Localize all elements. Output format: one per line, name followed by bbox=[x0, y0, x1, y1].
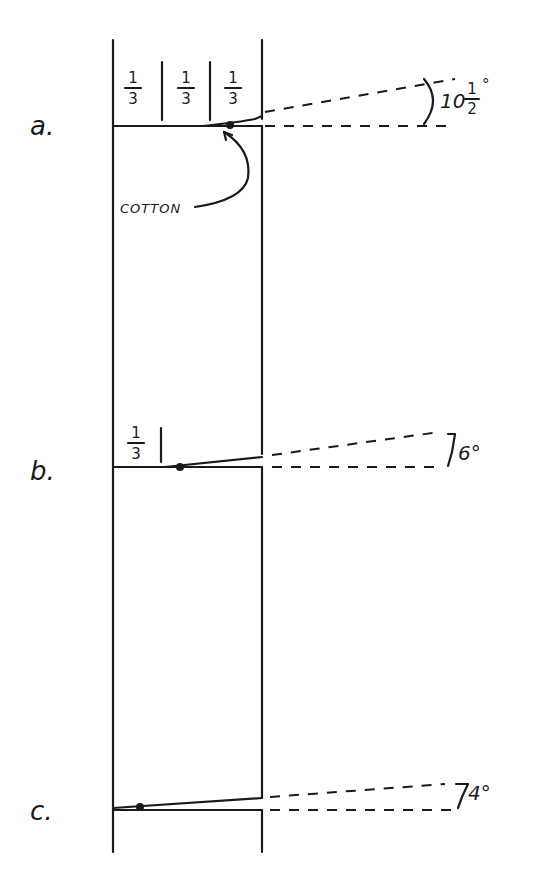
svg-text:1: 1 bbox=[131, 424, 141, 442]
cotton-knot-b bbox=[176, 463, 184, 471]
svg-text:3: 3 bbox=[131, 445, 141, 463]
fraction-b-1: 1 3 bbox=[128, 424, 144, 463]
fraction-a-2: 1 3 bbox=[178, 69, 194, 108]
cotton-knot-c bbox=[136, 803, 144, 811]
svg-text:1: 1 bbox=[181, 69, 191, 87]
panel-b bbox=[113, 428, 455, 471]
flap-c bbox=[113, 798, 262, 808]
label-b: b. bbox=[30, 456, 55, 486]
angle-line-upper-b bbox=[272, 432, 440, 455]
cotton-knot-a bbox=[226, 121, 234, 129]
cotton-arrow bbox=[195, 132, 249, 207]
angle-label-b: 6° bbox=[458, 441, 481, 465]
svg-text:2: 2 bbox=[467, 100, 477, 118]
panel-c bbox=[113, 784, 468, 811]
angle-line-upper-c bbox=[270, 784, 445, 797]
angle-bracket-a bbox=[424, 79, 433, 124]
svg-text:°: ° bbox=[482, 76, 490, 94]
svg-text:3: 3 bbox=[128, 90, 138, 108]
svg-text:3: 3 bbox=[181, 90, 191, 108]
fraction-a-3: 1 3 bbox=[225, 69, 241, 108]
panel-a bbox=[113, 62, 455, 207]
label-c: c. bbox=[30, 796, 53, 826]
svg-text:3: 3 bbox=[228, 90, 238, 108]
angle-bracket-c bbox=[456, 784, 468, 808]
label-a: a. bbox=[30, 111, 54, 141]
svg-text:1: 1 bbox=[467, 80, 477, 98]
angle-bracket-b bbox=[448, 434, 455, 466]
svg-text:1: 1 bbox=[228, 69, 238, 87]
svg-text:10: 10 bbox=[440, 89, 465, 113]
angle-label-a: 10 1 2 ° bbox=[440, 76, 490, 118]
cotton-annotation: COTTON bbox=[120, 201, 181, 216]
diagram-canvas: a. b. c. 1 3 1 3 1 3 1 3 COTTON 10 1 2 °… bbox=[0, 0, 545, 889]
angle-label-c: 4° bbox=[468, 781, 491, 805]
svg-text:1: 1 bbox=[128, 69, 138, 87]
fraction-a-1: 1 3 bbox=[125, 69, 141, 108]
